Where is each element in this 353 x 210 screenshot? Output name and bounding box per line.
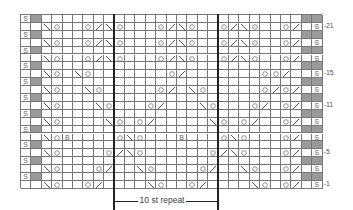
chart-cell (239, 94, 249, 102)
chart-cell (63, 102, 73, 110)
yarn-over-icon (281, 149, 291, 157)
chart-cell (302, 62, 312, 70)
chart-cell (63, 62, 73, 70)
yarn-over-icon (146, 165, 156, 173)
ssk-decrease-icon (239, 23, 249, 31)
yarn-over-icon (187, 55, 197, 63)
chart-cell (229, 78, 239, 86)
chart-cell (146, 94, 156, 102)
chart-cell (42, 110, 52, 118)
chart-cell (156, 94, 166, 102)
chart-cell (156, 31, 166, 39)
chart-cell (42, 157, 52, 165)
yarn-over-icon (52, 39, 62, 47)
k2tog-decrease-icon (291, 149, 301, 157)
chart-cell (312, 94, 322, 102)
chart-cell (219, 70, 229, 78)
ssk-decrease-icon (229, 149, 239, 157)
chart-cell (167, 94, 177, 102)
chart-cell (260, 39, 270, 47)
chart-cell (135, 102, 145, 110)
chart-cell (21, 102, 31, 110)
chart-cell (177, 62, 187, 70)
chart-cell (281, 157, 291, 165)
row-number-label: -5 (324, 148, 330, 155)
chart-cell (31, 55, 41, 63)
chart-cell (229, 31, 239, 39)
chart-cell (260, 31, 270, 39)
chart-cell (187, 126, 197, 134)
chart-cell (135, 31, 145, 39)
chart-cell (167, 31, 177, 39)
chart-cell (229, 94, 239, 102)
chart-cell (146, 157, 156, 165)
chart-cell (167, 181, 177, 189)
chart-cell (250, 173, 260, 181)
chart-cell (302, 86, 312, 94)
chart-cell (94, 157, 104, 165)
chart-cell (198, 39, 208, 47)
chart-cell (52, 126, 62, 134)
ssk-decrease-icon (229, 134, 239, 142)
slip-stitch-symbol: S (21, 94, 31, 102)
chart-cell (73, 110, 83, 118)
chart-cell (156, 47, 166, 55)
chart-cell (125, 31, 135, 39)
chart-cell (291, 141, 301, 149)
chart-cell (94, 62, 104, 70)
chart-cell (167, 110, 177, 118)
row-number-label: -1 (324, 180, 330, 187)
chart-cell (63, 94, 73, 102)
chart-cell (312, 47, 322, 55)
chart-cell (177, 149, 187, 157)
yarn-over-icon (250, 39, 260, 47)
chart-cell (135, 173, 145, 181)
chart-cell (271, 149, 281, 157)
chart-cell (312, 110, 322, 118)
slip-stitch-symbol: S (21, 110, 31, 118)
chart-cell (291, 126, 301, 134)
chart-cell (31, 86, 41, 94)
yarn-over-icon (281, 165, 291, 173)
chart-cell (156, 173, 166, 181)
slip-stitch-symbol: S (312, 102, 322, 110)
chart-cell (302, 181, 312, 189)
ssk-decrease-icon (125, 134, 135, 142)
chart-cell (302, 165, 312, 173)
chart-cell (177, 157, 187, 165)
chart-cell (83, 173, 93, 181)
chart-cell (73, 94, 83, 102)
yarn-over-icon (167, 70, 177, 78)
ssk-decrease-icon (239, 55, 249, 63)
k2tog-decrease-icon (291, 39, 301, 47)
chart-cell (219, 78, 229, 86)
slip-stitch-symbol: S (21, 157, 31, 165)
yarn-over-icon (83, 39, 93, 47)
chart-cell (115, 102, 125, 110)
yarn-over-icon (250, 102, 260, 110)
chart-cell (239, 70, 249, 78)
yarn-over-icon (52, 181, 62, 189)
chart-cell (63, 126, 73, 134)
chart-cell (31, 31, 41, 39)
chart-cell (312, 173, 322, 181)
yarn-over-icon (281, 39, 291, 47)
chart-cell (271, 55, 281, 63)
yarn-over-icon (115, 118, 125, 126)
chart-cell (146, 134, 156, 142)
chart-cell (291, 62, 301, 70)
chart-cell (63, 70, 73, 78)
chart-cell (156, 126, 166, 134)
chart-cell (73, 126, 83, 134)
yarn-over-icon (187, 181, 197, 189)
yarn-over-icon (239, 118, 249, 126)
chart-cell (250, 78, 260, 86)
chart-cell (271, 31, 281, 39)
chart-cell (21, 181, 31, 189)
chart-cell (271, 165, 281, 173)
yarn-over-icon (52, 165, 62, 173)
chart-cell (260, 94, 270, 102)
chart-cell (187, 134, 197, 142)
chart-cell (219, 165, 229, 173)
yarn-over-icon (219, 55, 229, 63)
